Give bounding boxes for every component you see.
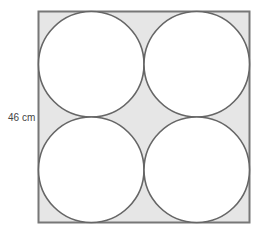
circle-top-right	[144, 12, 250, 118]
circle-top-left	[39, 12, 145, 118]
circle-bottom-right	[144, 117, 250, 223]
circle-bottom-left	[39, 117, 145, 223]
side-length-label: 46 cm	[8, 112, 35, 123]
square-with-four-circles-diagram: 46 cm	[0, 0, 266, 234]
